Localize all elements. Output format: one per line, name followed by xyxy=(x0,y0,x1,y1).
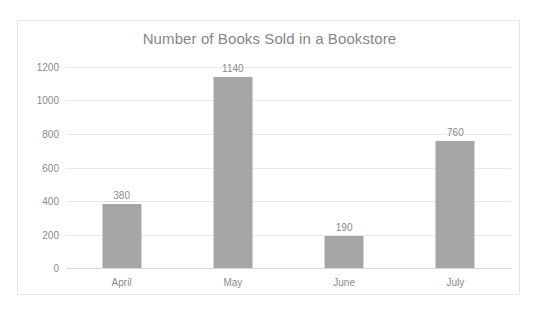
y-axis-tick-label: 200 xyxy=(42,229,59,240)
chart-frame: Number of Books Sold in a Bookstore 0200… xyxy=(17,20,520,295)
y-axis-tick-label: 600 xyxy=(42,162,59,173)
chart-title: Number of Books Sold in a Bookstore xyxy=(18,30,521,47)
bar-group[interactable]: 380April xyxy=(66,67,177,268)
bar[interactable] xyxy=(213,77,252,268)
y-axis-tick-label: 400 xyxy=(42,195,59,206)
plot-area: 020040060080010001200 380April1140May190… xyxy=(66,67,511,268)
bar-group[interactable]: 1140May xyxy=(177,67,288,268)
y-axis-tick-label: 800 xyxy=(42,128,59,139)
y-axis-tick-label: 0 xyxy=(53,263,59,274)
bar[interactable] xyxy=(102,204,141,268)
bar-value-label: 1140 xyxy=(222,63,244,74)
bar-group[interactable]: 760July xyxy=(400,67,511,268)
x-axis-category-label: April xyxy=(112,277,132,288)
bar-group[interactable]: 190June xyxy=(289,67,400,268)
x-axis-category-label: July xyxy=(446,277,464,288)
x-axis-category-label: May xyxy=(223,277,242,288)
bar-value-label: 190 xyxy=(336,222,353,233)
y-axis-tick-label: 1200 xyxy=(37,62,59,73)
y-axis-tick-label: 1000 xyxy=(37,95,59,106)
x-axis-category-label: June xyxy=(333,277,355,288)
bar[interactable] xyxy=(436,141,475,268)
bar-value-label: 760 xyxy=(447,127,464,138)
bar-value-label: 380 xyxy=(113,190,130,201)
bar[interactable] xyxy=(325,236,364,268)
gridline xyxy=(66,268,511,269)
